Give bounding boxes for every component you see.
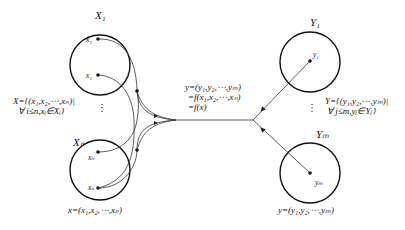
element-label-xna: xₙ bbox=[88, 153, 94, 163]
element-label-x1b: x₁ bbox=[86, 71, 92, 81]
set-label-Xn: Xₙ bbox=[73, 137, 84, 147]
set-X1-circle bbox=[70, 35, 130, 95]
ellipsis-right: ⋮ bbox=[307, 103, 317, 113]
center-formula-line1: y=(y₁,y₂,⋯,yₘ) bbox=[185, 82, 241, 92]
merge-lower bbox=[137, 120, 176, 150]
y-tuple-label: y=(y₁,y₂,⋯,yₘ) bbox=[278, 205, 334, 215]
set-label-Ym: Yₘ bbox=[316, 129, 329, 139]
figure-caption bbox=[125, 213, 285, 219]
set-Xn-circle bbox=[70, 140, 130, 200]
x-set-definition-line2: ∀ i≤n,xᵢ∈Xᵢ} bbox=[18, 106, 64, 116]
element-label-xnb: xₙ bbox=[88, 183, 94, 193]
curve-x1a bbox=[98, 39, 176, 120]
y-set-definition-line1: Y={(y₁,y₂,⋯,yₘ)| bbox=[325, 96, 388, 106]
element-label-ym: yₘ bbox=[315, 178, 323, 188]
set-label-X1: X₁ bbox=[95, 10, 106, 20]
curve-xnb bbox=[98, 120, 176, 188]
y-set-definition-line2: ∀ j≤m,yⱼ∈Yⱼ} bbox=[327, 106, 376, 116]
ellipsis-left: ⋮ bbox=[97, 103, 107, 113]
x-set-definition-line1: X={(x₁,x₂,⋯,xₙ)| bbox=[13, 96, 75, 106]
set-label-Y1: Y₁ bbox=[310, 17, 320, 27]
x-tuple-label: x=(x₁,x₂,⋯,xₙ) bbox=[68, 205, 122, 215]
center-formula-line2: =f(x₁,x₂,⋯,xₙ) bbox=[188, 92, 241, 102]
element-label-x1a: x₁ bbox=[86, 35, 92, 45]
center-formula-line3: =f(x) bbox=[188, 102, 207, 112]
arrow-head-ym bbox=[259, 126, 266, 133]
element-label-y1: y₁ bbox=[313, 50, 319, 60]
